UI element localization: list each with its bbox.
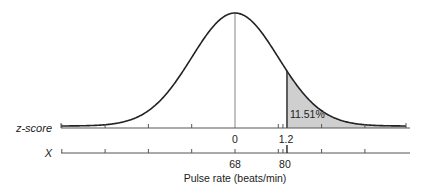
x-tick-label-68: 68 — [229, 158, 241, 170]
z-tick-label-0: 0 — [232, 133, 238, 145]
normal-curve-chart: 11.51% z-score X 0 1.2 68 80 Pulse rate … — [0, 0, 422, 193]
shaded-area-label: 11.51% — [290, 108, 325, 120]
z-tick-label-1.2: 1.2 — [279, 133, 294, 145]
x-axis-title: Pulse rate (beats/min) — [184, 172, 287, 184]
x-axis-name: X — [44, 147, 53, 159]
x-tick-label-80: 80 — [279, 158, 291, 170]
normal-curve — [61, 13, 406, 126]
z-axis-name: z-score — [15, 122, 52, 134]
x-axis-ticks — [62, 145, 365, 153]
